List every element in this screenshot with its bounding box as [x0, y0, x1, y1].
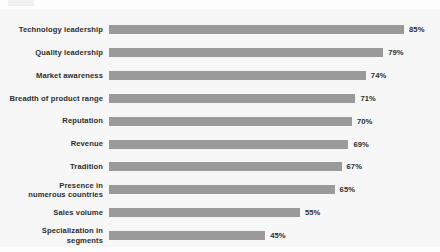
- bar-row: Sales volume55%: [0, 201, 440, 224]
- bar: [109, 208, 300, 217]
- bar: [109, 71, 366, 80]
- category-label: Sales volume: [0, 208, 109, 217]
- bar-row: Market awareness74%: [0, 64, 440, 87]
- bar-row: Specialization insegments45%: [0, 224, 440, 247]
- cropped-title-artifact: [8, 0, 34, 6]
- bar-wrapper: 67%: [109, 155, 440, 178]
- bar-row: Presence innumerous countries65%: [0, 178, 440, 201]
- category-label: Presence innumerous countries: [0, 181, 109, 199]
- horizontal-bar-chart: Technology leadership85%Quality leadersh…: [0, 0, 440, 252]
- bar: [109, 231, 265, 240]
- category-label: Tradition: [0, 162, 109, 171]
- bar-wrapper: 70%: [109, 110, 440, 133]
- bar-wrapper: 45%: [109, 224, 440, 247]
- bar-wrapper: 79%: [109, 41, 440, 64]
- bar-value-label: 69%: [353, 140, 369, 149]
- bar-row: Technology leadership85%: [0, 18, 440, 41]
- category-label: Market awareness: [0, 71, 109, 80]
- bar-wrapper: 85%: [109, 18, 440, 41]
- category-label: Reputation: [0, 116, 109, 125]
- bar-row: Breadth of product range71%: [0, 87, 440, 110]
- bar-value-label: 65%: [340, 185, 356, 194]
- plot-area: Technology leadership85%Quality leadersh…: [0, 9, 440, 247]
- bar-value-label: 67%: [347, 162, 363, 171]
- bar-value-label: 45%: [270, 231, 286, 240]
- bar-value-label: 85%: [409, 25, 425, 34]
- category-label: Revenue: [0, 139, 109, 148]
- bar: [109, 25, 404, 34]
- bar: [109, 94, 355, 103]
- category-label: Technology leadership: [0, 25, 109, 34]
- bar-row: Quality leadership79%: [0, 41, 440, 64]
- bar-wrapper: 69%: [109, 133, 440, 156]
- category-label: Breadth of product range: [0, 94, 109, 103]
- bar-wrapper: 55%: [109, 201, 440, 224]
- bar: [109, 48, 383, 57]
- bar-value-label: 70%: [357, 117, 373, 126]
- bar: [109, 185, 335, 194]
- bar-value-label: 55%: [305, 208, 321, 217]
- bar-row: Reputation70%: [0, 110, 440, 133]
- bar-wrapper: 74%: [109, 64, 440, 87]
- bar-wrapper: 71%: [109, 87, 440, 110]
- bar-wrapper: 65%: [109, 178, 440, 201]
- bar-value-label: 71%: [360, 94, 376, 103]
- bar: [109, 117, 352, 126]
- bar-row: Tradition67%: [0, 155, 440, 178]
- bar-value-label: 74%: [371, 71, 387, 80]
- bar-value-label: 79%: [388, 48, 404, 57]
- bar-row: Revenue69%: [0, 133, 440, 156]
- category-label: Specialization insegments: [0, 226, 109, 244]
- bar: [109, 162, 342, 171]
- bar: [109, 140, 348, 149]
- category-label: Quality leadership: [0, 48, 109, 57]
